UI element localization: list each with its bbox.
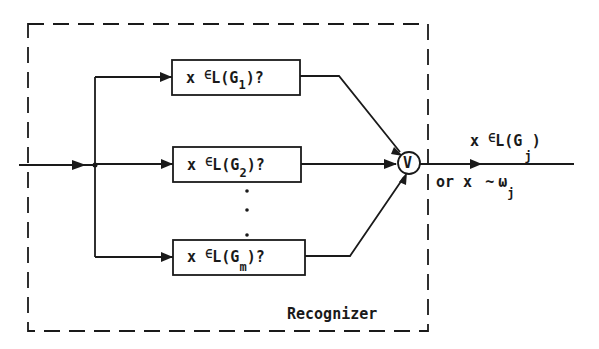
arrow-icon bbox=[160, 72, 172, 82]
or-combiner: V bbox=[398, 152, 420, 174]
arrow-icon bbox=[161, 252, 173, 262]
ellipsis bbox=[245, 189, 249, 237]
recognizer-label: Recognizer bbox=[287, 305, 377, 323]
input-line bbox=[19, 160, 98, 170]
output-arrow-icon bbox=[470, 159, 482, 169]
arrow-icon bbox=[161, 159, 173, 169]
svg-text:V: V bbox=[403, 154, 412, 172]
branch-gm: x ∈L(Gm)? bbox=[95, 172, 407, 275]
branch-g1: x ∈L(G1)? bbox=[95, 60, 403, 156]
recognizer-diagram: Recognizer x ∈L(G1)? x ∈L(G2)? bbox=[0, 0, 599, 349]
output-label-1: x ∈L(Gj) bbox=[470, 131, 541, 163]
branch-g2: x ∈L(G2)? bbox=[95, 147, 397, 182]
input-arrow-icon bbox=[72, 160, 86, 170]
output: x ∈L(Gj) or x ~ωj bbox=[420, 131, 574, 200]
arrow-icon bbox=[384, 159, 397, 169]
output-label-2: or x ~ωj bbox=[436, 173, 514, 200]
